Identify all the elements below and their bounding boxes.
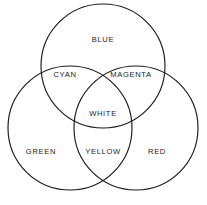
region-label-magenta: MAGENTA (110, 71, 152, 79)
region-label-white: WHITE (89, 110, 117, 118)
venn-circles-group (0, 0, 207, 205)
region-label-cyan: CYAN (53, 71, 76, 79)
venn-diagram-canvas: BLUE CYAN MAGENTA WHITE GREEN YELLOW RED (0, 0, 207, 205)
region-label-red: RED (148, 148, 166, 156)
region-label-green: GREEN (26, 148, 56, 156)
green-circle (8, 66, 132, 190)
red-circle (74, 66, 198, 190)
region-label-yellow: YELLOW (85, 148, 121, 156)
region-label-blue: BLUE (92, 36, 114, 44)
